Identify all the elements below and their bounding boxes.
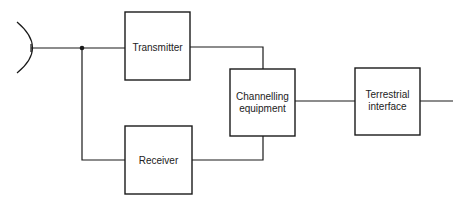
antenna-dish-icon (17, 22, 33, 73)
wire-antenna-receiver (82, 48, 125, 160)
channelling-label-line1: Channelling (236, 91, 289, 102)
wire-receiver-channelling (192, 136, 263, 160)
channelling-label-line2: equipment (239, 103, 286, 114)
terrestrial-label-line1: Terrestrial (366, 89, 410, 100)
transmitter-label: Transmitter (132, 42, 183, 53)
block-diagram: Transmitter Receiver Channelling equipme… (0, 0, 468, 202)
wire-transmitter-channelling (190, 47, 263, 69)
terrestrial-label-line2: interface (368, 101, 407, 112)
receiver-label: Receiver (139, 155, 179, 166)
